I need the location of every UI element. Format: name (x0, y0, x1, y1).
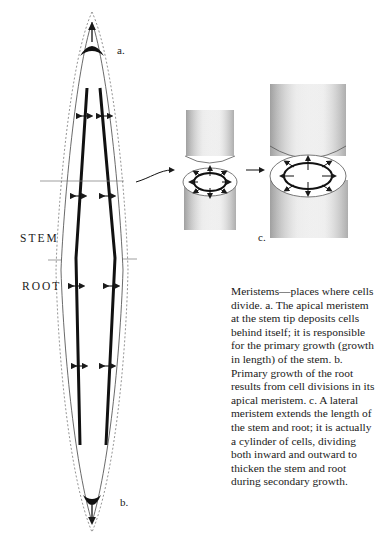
plant-body (56, 12, 128, 532)
label-a: a. (117, 44, 125, 56)
label-root: ROOT (22, 280, 61, 292)
apical-meristem-root (83, 495, 101, 521)
lateral-meristem-lines (76, 88, 115, 445)
label-c: c. (258, 231, 266, 243)
label-stem: STEM (20, 232, 59, 244)
figure-caption: Meristems—places where cells divide. a. … (231, 285, 377, 489)
cross-section-large (270, 84, 348, 238)
label-b: b. (120, 496, 128, 508)
apical-meristem-stem (80, 26, 104, 56)
section-lines (40, 181, 137, 260)
pointer-arrow (136, 170, 172, 182)
cross-section-small (183, 110, 237, 230)
